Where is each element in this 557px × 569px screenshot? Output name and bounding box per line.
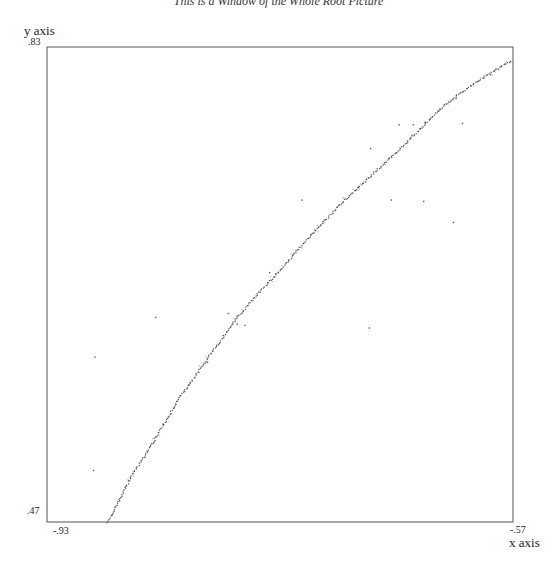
plot-area [0, 0, 557, 569]
curve-points [106, 61, 512, 524]
plot-frame [47, 47, 513, 522]
outlier-points [93, 98, 463, 471]
